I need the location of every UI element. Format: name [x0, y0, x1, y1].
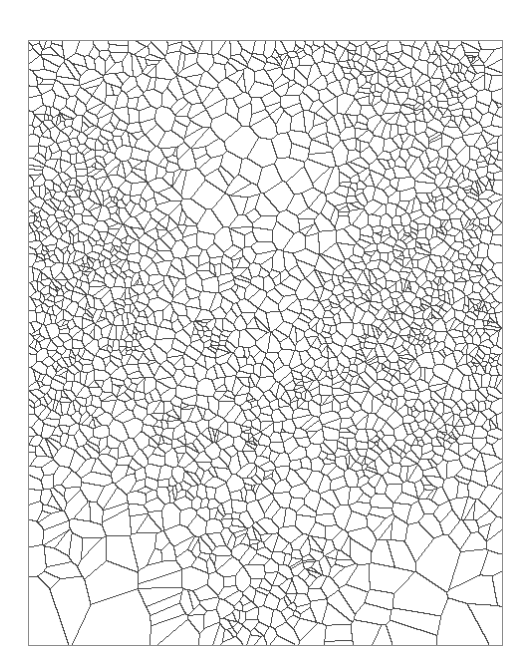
voronoi-diagram: [29, 41, 502, 645]
voronoi-frame: [28, 40, 503, 646]
